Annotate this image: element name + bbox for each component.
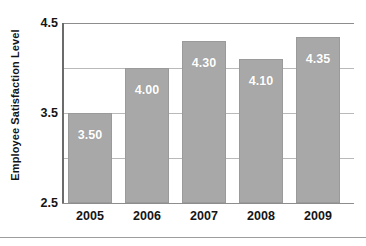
x-axis-baseline [62, 203, 354, 204]
y-axis-title: Employee Satisfaction Level [0, 0, 30, 210]
bar-value-label-2009: 4.35 [297, 52, 339, 66]
y-tick-label-3-5: 3.5 [30, 107, 58, 120]
chart-screenshot: Employee Satisfaction Level 4.5 3.5 2.5 … [0, 0, 366, 246]
bar-group: 3.50 4.00 4.30 4.10 4.35 [62, 23, 352, 203]
bar-value-label-2007: 4.30 [183, 56, 225, 70]
bar-2009[interactable]: 4.35 [296, 37, 340, 203]
bar-value-label-2005: 3.50 [69, 128, 111, 142]
y-tick-label-4-5: 4.5 [30, 17, 58, 30]
x-label-2008: 2008 [233, 209, 289, 223]
x-label-2007: 2007 [176, 209, 232, 223]
x-label-2009: 2009 [290, 209, 346, 223]
bar-2006[interactable]: 4.00 [125, 68, 169, 203]
x-label-2005: 2005 [62, 209, 118, 223]
bar-2008[interactable]: 4.10 [239, 59, 283, 203]
bar-value-label-2006: 4.00 [126, 83, 168, 97]
bar-2005[interactable]: 3.50 [68, 113, 112, 203]
bottom-divider [0, 237, 366, 238]
bar-value-label-2008: 4.10 [240, 74, 282, 88]
y-axis-tick-labels: 4.5 3.5 2.5 [28, 0, 58, 246]
x-label-2006: 2006 [119, 209, 175, 223]
x-axis-category-labels: 2005 2006 2007 2008 2009 [62, 206, 352, 228]
y-axis-title-text: Employee Satisfaction Level [9, 29, 21, 180]
y-tick-label-2-5: 2.5 [30, 197, 58, 210]
bar-2007[interactable]: 4.30 [182, 41, 226, 203]
